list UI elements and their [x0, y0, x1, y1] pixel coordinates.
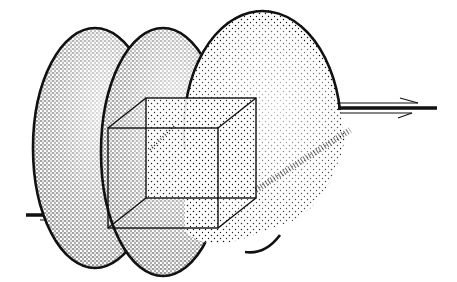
axis-arrow-right[interactable]: [338, 98, 437, 118]
ellipsoid-cube-diagram: [0, 0, 457, 282]
